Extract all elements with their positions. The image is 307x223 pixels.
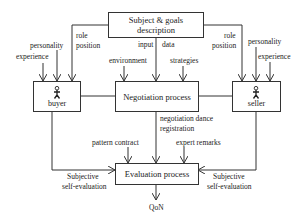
buyer-box: buyer [33, 81, 81, 112]
negotiation-dance-label: negotiation dance [160, 114, 213, 123]
seller-label: seller [248, 99, 265, 108]
seller-actor: seller [248, 86, 265, 108]
person-icon [52, 86, 62, 99]
pattern-contract-label: pattern contract [92, 138, 139, 147]
seller-position-label: position [212, 41, 236, 50]
buyer-label: buyer [48, 99, 66, 108]
subject-goals-box: Subject & goals description [108, 12, 204, 38]
expert-remarks-label: expert remarks [176, 138, 221, 147]
input-label: input [138, 40, 153, 49]
seller-self-evaluation-label: self-evaluation [207, 182, 252, 191]
buyer-self-evaluation-label: self-evaluation [62, 182, 107, 191]
environment-label: environment [109, 56, 147, 65]
evaluation-label: Evaluation process [125, 169, 189, 179]
seller-experience-label: experience [258, 52, 290, 61]
seller-subjective-label: Subjective [213, 172, 245, 181]
seller-box: seller [232, 81, 281, 112]
buyer-role-label: role [76, 31, 88, 40]
buyer-subjective-label: Subjective [67, 172, 99, 181]
buyer-actor: buyer [48, 86, 66, 108]
subject-label-line1: Subject & goals [129, 15, 183, 25]
buyer-personality-label: personality [30, 41, 63, 50]
subject-label-line2: description [137, 25, 175, 35]
buyer-position-label: position [76, 41, 100, 50]
negotiation-label: Negotiation process [123, 92, 191, 102]
seller-role-label: role [224, 31, 236, 40]
registration-label: registration [160, 124, 194, 133]
strategies-label: strategies [170, 56, 198, 65]
data-label: data [162, 40, 175, 49]
negotiation-process-box: Negotiation process [115, 81, 199, 112]
evaluation-process-box: Evaluation process [115, 163, 199, 185]
person-icon [251, 86, 261, 99]
seller-personality-label: personality [248, 37, 281, 46]
buyer-experience-label: experience [16, 52, 48, 61]
qon-output-label: QoN [149, 203, 164, 212]
